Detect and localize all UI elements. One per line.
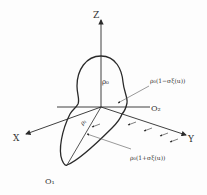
- lower-formula-leader: [87, 134, 131, 149]
- radiation-pattern-diagram: Z X Y O₂ O₁ ρ₀ ρ₁ ρ₀(1−σξ(u)) ρ₀(1+σξ(u)…: [0, 0, 207, 195]
- o1-label: O₁: [45, 177, 55, 186]
- lower-lobe-curve: [60, 114, 122, 165]
- y-axis: [101, 107, 186, 135]
- y-axis-label: Y: [187, 134, 195, 144]
- field-arrow: [144, 128, 152, 131]
- upper-formula-label: ρ₀(1−σξ(u)): [150, 77, 185, 85]
- field-arrow: [170, 139, 178, 142]
- lower-formula-label: ρ₀(1+σξ(u)): [130, 154, 165, 162]
- z-axis-label: Z: [93, 10, 99, 20]
- x-axis-label: X: [13, 133, 20, 143]
- upper-formula-leader: [118, 86, 149, 103]
- o1-line: [67, 107, 101, 165]
- field-arrow: [128, 122, 136, 125]
- rho-origin-label: ρ₁: [79, 117, 89, 127]
- field-arrow: [92, 124, 100, 127]
- o2-label: O₂: [151, 104, 161, 113]
- diagram-canvas: Z X Y O₂ O₁ ρ₀ ρ₁ ρ₀(1−σξ(u)) ρ₀(1+σξ(u)…: [0, 0, 207, 195]
- field-arrow: [160, 133, 168, 136]
- upper-lobe-curve: [70, 56, 101, 114]
- rho-center-label: ρ₀: [102, 78, 109, 86]
